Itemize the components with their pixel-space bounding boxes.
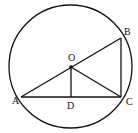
label-c: C bbox=[126, 96, 133, 107]
label-b: B bbox=[124, 26, 131, 37]
segment-oc bbox=[71, 67, 121, 97]
label-o: O bbox=[68, 52, 75, 63]
geometry-diagram: A B C O D bbox=[0, 0, 138, 133]
diagram-svg: A B C O D bbox=[0, 0, 138, 133]
center-point-o bbox=[69, 65, 73, 69]
label-d: D bbox=[67, 100, 74, 111]
label-a: A bbox=[12, 95, 20, 106]
